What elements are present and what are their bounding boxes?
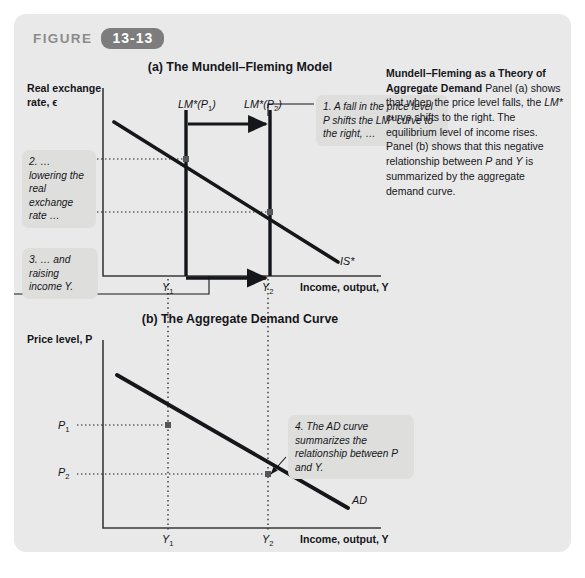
caption-em-lm: LM*: [544, 96, 563, 108]
callout-step-3: 3. … and raising income Y.: [22, 248, 98, 299]
panel-a-y-axis-label: Real exchange rate, ϵ: [27, 82, 117, 109]
tick-p1: P1: [58, 419, 69, 434]
panel-b-y-axis-label: Price level, P: [27, 333, 117, 347]
ad-curve-label: AD: [352, 494, 367, 506]
panel-b-x-axis-label: Income, output, Y: [300, 533, 389, 547]
caption-body-3: and: [492, 155, 515, 167]
figure-caption: Mundell–Fleming as a Theory of Aggregate…: [386, 66, 564, 198]
panel-b-title: (b) The Aggregate Demand Curve: [95, 312, 385, 326]
panel-a-title: (a) The Mundell–Fleming Model: [95, 60, 385, 74]
figure-number-badge: 13-13: [101, 28, 164, 49]
lm2-curve-label: LM*(P2): [244, 98, 282, 113]
tick-p2: P2: [58, 466, 69, 481]
figure-container: FIGURE 13-13 (a) The Mundell–Fleming Mod…: [0, 0, 585, 578]
lm1-curve-label: LM*(P1): [178, 98, 216, 113]
panel-a-x-axis-label: Income, output, Y: [300, 281, 389, 295]
figure-header: FIGURE 13-13: [33, 28, 164, 49]
callout-step-4: 4. The AD curve summarizes the relations…: [288, 415, 414, 479]
tick-y1-panel-b: Y1: [162, 533, 173, 548]
tick-y2-panel-b: Y2: [262, 533, 273, 548]
is-curve-label: IS*: [340, 255, 354, 267]
caption-em-y: Y: [516, 155, 523, 167]
callout-step-2: 2. … lowering the real exchange rate …: [22, 150, 96, 228]
tick-y2-panel-a: Y2: [262, 281, 273, 296]
tick-y1-panel-a: Y1: [162, 281, 173, 296]
figure-label: FIGURE: [33, 31, 92, 46]
